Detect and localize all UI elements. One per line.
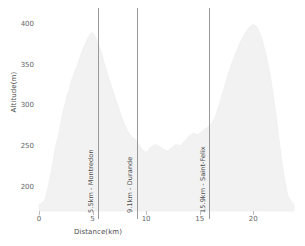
x-axis-tick-labels: 05101520	[39, 215, 294, 227]
x-tick-label: 5	[78, 215, 108, 223]
elevation-area-path	[39, 24, 294, 211]
marker-line-2	[137, 8, 138, 219]
y-tick-label: 300	[4, 101, 34, 109]
x-tick-mark	[146, 211, 147, 215]
x-tick-label: 20	[238, 215, 268, 223]
x-tick-mark	[200, 211, 201, 215]
marker-label-3: 15.9km - Saint-Felix	[199, 146, 207, 213]
plot-area	[39, 8, 294, 211]
y-axis-tick-labels: 200250300350400	[0, 8, 34, 211]
y-tick-label: 200	[4, 183, 34, 191]
marker-line-3	[209, 8, 210, 219]
elevation-profile-chart: Altitude(m) Distance(km) 200250300350400…	[0, 0, 305, 246]
x-tick-label: 0	[24, 215, 54, 223]
x-tick-label: 10	[131, 215, 161, 223]
y-tick-label: 400	[4, 20, 34, 28]
x-axis-label: Distance(km)	[48, 228, 148, 236]
x-tick-mark	[93, 211, 94, 215]
elevation-area-series	[39, 8, 294, 211]
marker-label-1: 5.5km - Montredon	[87, 149, 95, 213]
marker-label-2: 9.1km - Durande	[126, 157, 134, 213]
y-tick-label: 350	[4, 61, 34, 69]
x-tick-mark	[39, 211, 40, 215]
marker-line-1	[98, 8, 99, 219]
y-tick-label: 250	[4, 142, 34, 150]
x-tick-label: 15	[185, 215, 215, 223]
x-tick-mark	[253, 211, 254, 215]
